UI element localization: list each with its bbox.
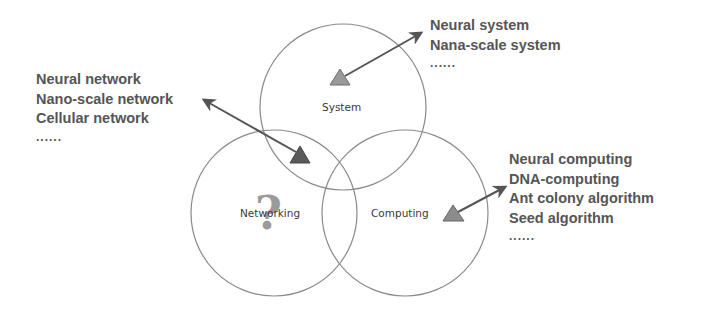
- computing-examples-list: Neural computing DNA-computing Ant colon…: [509, 150, 654, 245]
- computing-label: Computing: [371, 207, 429, 219]
- list-ellipsis: ......: [430, 55, 561, 72]
- list-ellipsis: ......: [36, 129, 173, 146]
- list-item: Neural computing: [509, 150, 654, 170]
- list-item: Seed algorithm: [509, 209, 654, 229]
- list-item: Ant colony algorithm: [509, 189, 654, 209]
- computing-triangle-icon: [443, 205, 464, 221]
- list-item: Nano-scale network: [36, 90, 173, 110]
- venn-diagram: ? System Networking Computing Neural net…: [0, 0, 704, 313]
- system-examples-list: Neural system Nana-scale system ......: [430, 16, 561, 72]
- networking-arrow: [204, 100, 296, 152]
- system-label: System: [322, 101, 361, 113]
- system-arrow: [345, 33, 421, 76]
- list-item: Neural system: [430, 16, 561, 36]
- list-ellipsis: ......: [509, 228, 654, 245]
- networking-triangle-icon: [290, 146, 310, 163]
- networking-label: Networking: [240, 207, 300, 219]
- list-item: Neural network: [36, 70, 173, 90]
- system-triangle-icon: [330, 69, 350, 85]
- list-item: Cellular network: [36, 109, 173, 129]
- list-item: DNA-computing: [509, 170, 654, 190]
- computing-arrow: [458, 187, 505, 212]
- list-item: Nana-scale system: [430, 36, 561, 56]
- networking-examples-list: Neural network Nano-scale network Cellul…: [36, 70, 173, 146]
